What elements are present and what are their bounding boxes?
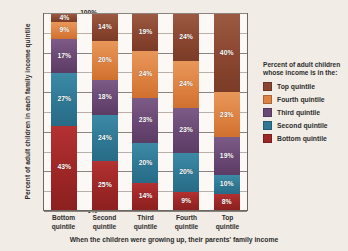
legend-swatch-icon [263,82,272,91]
x-axis-tick-line: Top [222,214,234,221]
x-axis-tick-line: Second [93,214,117,221]
bar-segment[interactable]: 27% [51,73,77,126]
legend-item-label: Second quintile [277,122,328,129]
x-axis-tick-label: Topquintile [208,214,248,231]
x-axis-tick-label: Secondquintile [85,214,125,231]
bar-segment[interactable]: 20% [92,41,118,80]
legend-item[interactable]: Top quintile [263,82,347,91]
bar-segment[interactable]: 43% [51,126,77,210]
bar-segment[interactable]: 23% [214,92,240,137]
x-axis-tick-line: quintile [175,223,198,230]
bar-segment[interactable]: 19% [214,137,240,174]
bar-group: 4%9%17%27%43%14%20%18%24%25%19%24%23%20%… [44,14,247,210]
bar-segment-label: 27% [57,96,71,103]
bar-segment[interactable]: 14% [92,14,118,41]
bar-segment-label: 19% [220,153,234,160]
bar-segment-label: 9% [59,27,69,34]
bar-segment-label: 23% [179,127,193,134]
bar-column[interactable]: 14%20%18%24%25% [92,14,118,210]
legend-item-label: Bottom quintile [277,135,327,142]
bar-segment-label: 20% [98,57,112,64]
bar-segment[interactable]: 40% [214,14,240,92]
bar-segment[interactable]: 10% [214,175,240,195]
legend-items: Top quintileFourth quintileThird quintil… [263,82,347,143]
bar-segment-label: 23% [139,117,153,124]
bar-segment-label: 40% [220,50,234,57]
x-axis-tick-line: quintile [93,223,116,230]
bar-segment-label: 10% [220,181,234,188]
bar-segment[interactable]: 24% [173,14,199,61]
bar-segment-label: 25% [98,182,112,189]
bar-segment-label: 20% [179,169,193,176]
legend-item-label: Third quintile [277,109,320,116]
bar-segment[interactable]: 9% [173,192,199,210]
plot-area: 4%9%17%27%43%14%20%18%24%25%19%24%23%20%… [43,13,248,211]
stacked-bar-chart: Percent of adult children in each family… [0,0,348,251]
legend: Percent of adult children whose income i… [263,61,347,147]
legend-item-label: Fourth quintile [277,96,325,103]
bar-segment-label: 20% [139,160,153,167]
x-axis-tick-label: Fourthquintile [167,214,207,231]
bar-column[interactable]: 24%24%23%20%9% [173,14,199,210]
legend-swatch-icon [263,108,272,117]
bar-segment[interactable]: 4% [51,14,77,22]
bar-column[interactable]: 4%9%17%27%43% [51,14,77,210]
bar-segment-label: 19% [139,29,153,36]
bar-segment[interactable]: 19% [132,14,158,51]
legend-item-label: Top quintile [277,83,315,90]
gridline [44,211,247,212]
legend-item[interactable]: Fourth quintile [263,95,347,104]
x-axis-tick-line: quintile [52,223,75,230]
legend-swatch-icon [263,121,272,130]
legend-swatch-icon [263,134,272,143]
bar-segment-label: 24% [139,71,153,78]
bar-segment[interactable]: 14% [132,183,158,210]
bar-segment-label: 17% [57,53,71,60]
x-axis-tick-line: Fourth [176,214,197,221]
bar-segment-label: 18% [98,94,112,101]
x-axis-tick-line: quintile [134,223,157,230]
bar-segment-label: 14% [98,24,112,31]
x-axis-tick-line: Bottom [52,214,75,221]
x-axis-tick-labels: BottomquintileSecondquintileThirdquintil… [43,214,248,231]
bar-segment[interactable]: 24% [92,115,118,162]
x-axis-tick-line: Third [137,214,153,221]
bar-segment[interactable]: 24% [173,61,199,108]
bar-segment[interactable]: 24% [132,51,158,98]
legend-item[interactable]: Second quintile [263,121,347,130]
bar-segment[interactable]: 20% [132,143,158,182]
bar-column[interactable]: 19%24%23%20%14% [132,14,158,210]
bar-segment[interactable]: 23% [173,108,199,153]
bar-segment-label: 4% [59,15,69,22]
bar-segment-label: 9% [181,198,191,205]
bar-segment-label: 8% [222,199,232,206]
bar-segment[interactable]: 17% [51,39,77,72]
x-axis-title: When the children were growing up, their… [24,236,324,243]
bar-segment-label: 43% [57,164,71,171]
bar-column[interactable]: 40%23%19%10%8% [214,14,240,210]
bar-segment[interactable]: 20% [173,153,199,192]
legend-item[interactable]: Bottom quintile [263,134,347,143]
legend-swatch-icon [263,95,272,104]
x-axis-tick-label: Thirdquintile [126,214,166,231]
bar-segment-label: 24% [179,34,193,41]
bar-segment[interactable]: 18% [92,80,118,115]
bar-segment-label: 14% [139,193,153,200]
bar-segment-label: 24% [98,135,112,142]
bar-segment[interactable]: 25% [92,161,118,210]
bar-segment[interactable]: 23% [132,98,158,143]
bar-segment-label: 24% [179,81,193,88]
bar-segment[interactable]: 9% [51,22,77,40]
legend-item[interactable]: Third quintile [263,108,347,117]
bar-segment-label: 23% [220,112,234,119]
x-axis-tick-line: quintile [216,223,239,230]
x-axis-tick-label: Bottomquintile [44,214,84,231]
bar-segment[interactable]: 8% [214,194,240,210]
legend-title: Percent of adult children whose income i… [263,61,347,78]
